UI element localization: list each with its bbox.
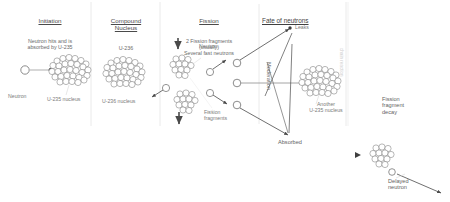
label-edge-note: chain reaction bbox=[339, 48, 344, 77]
initiation-subtitle: Neutron hits and is absorbed by U-235 bbox=[14, 39, 86, 51]
absorbed-path bbox=[240, 108, 288, 135]
label-moderation: Moderation bbox=[266, 62, 272, 90]
delayed-neutron-icon bbox=[389, 169, 396, 176]
compound-title: Compound Nucleus bbox=[98, 18, 154, 32]
initiation-title: Initiation bbox=[14, 18, 86, 25]
label-neutron-p3: Neutron bbox=[199, 44, 217, 50]
label-fission-fragments: Fission fragments bbox=[204, 110, 227, 122]
label-leaks: Leaks bbox=[295, 25, 309, 31]
fission-fragment-2 bbox=[174, 90, 198, 114]
label-neutron-p1: Neutron bbox=[8, 94, 26, 100]
decay-in-arrow bbox=[355, 152, 361, 158]
fast-neutron-2 bbox=[206, 89, 213, 96]
panel-heading-decay: Fission fragment decay bbox=[382, 96, 404, 115]
fast-neutron-3 bbox=[162, 84, 169, 91]
panel-heading-initiation: Initiation Neutron hits and is absorbed … bbox=[14, 4, 86, 64]
label-u236-nucleus: U-236 nucleus bbox=[102, 99, 135, 105]
decay-fragment-blob bbox=[370, 144, 394, 168]
label-delayed-neutron: Delayed neutron bbox=[388, 178, 409, 191]
label-absorbed: Absorbed bbox=[278, 139, 302, 145]
panel-heading-compound: Compound Nucleus U-236 bbox=[98, 4, 154, 65]
label-another-u235-nucleus: Another U-235 nucleus bbox=[300, 102, 352, 114]
fate-neutron-moderated bbox=[233, 79, 241, 87]
fission-title: Fission bbox=[163, 18, 255, 25]
label-u235-nucleus: U-235 nucleus bbox=[47, 97, 80, 103]
diagram-canvas: Initiation Neutron hits and is absorbed … bbox=[0, 0, 450, 202]
another-u235-nucleus-blob bbox=[299, 65, 341, 96]
incoming-neutron-icon bbox=[21, 66, 29, 74]
fate-neutron-absorbed bbox=[233, 101, 241, 109]
panel-heading-fission: Fission 2 Fission fragments (usually) Se… bbox=[163, 4, 255, 70]
compound-subtitle: U-236 bbox=[98, 46, 154, 52]
